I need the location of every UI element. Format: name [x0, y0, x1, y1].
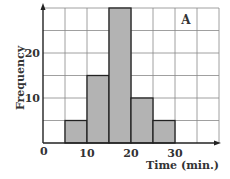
origin-label: 0	[40, 145, 48, 158]
x-axis-label: Time (min.)	[146, 159, 219, 172]
histogram-chart: 0 10 20 30 10 20 Time (min.) Frequency A	[0, 0, 230, 179]
y-axis-arrow-icon	[41, 3, 46, 10]
panel-label: A	[180, 13, 191, 27]
x-tick-10: 10	[79, 147, 95, 160]
histogram-bar	[109, 8, 131, 143]
y-tick-20: 20	[25, 47, 41, 60]
histogram-bar	[131, 98, 153, 143]
y-axis-label: Frequency	[14, 45, 27, 110]
histogram-bar	[153, 121, 175, 144]
y-tick-10: 10	[25, 92, 41, 105]
x-axis-arrow-icon	[214, 141, 221, 146]
x-tick-20: 20	[123, 147, 139, 160]
histogram-bar	[65, 121, 87, 144]
histogram-bar	[87, 76, 109, 144]
